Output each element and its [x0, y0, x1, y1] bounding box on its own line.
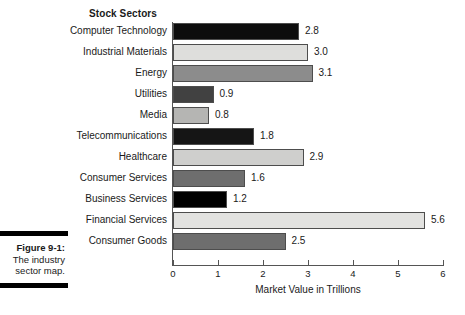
category-label: Telecommunications — [0, 130, 167, 141]
bar-value-label: 0.9 — [220, 88, 234, 99]
bar-row: Telecommunications1.8 — [173, 127, 443, 148]
bar-value-label: 3.1 — [319, 67, 333, 78]
bar[interactable] — [173, 44, 308, 61]
bar-value-label: 2.9 — [310, 151, 324, 162]
x-tick-label: 2 — [253, 268, 273, 279]
category-label: Consumer Services — [0, 172, 167, 183]
bar-row: Consumer Goods2.5 — [173, 232, 443, 253]
x-tick-label: 6 — [433, 268, 453, 279]
bar-chart: Stock Sectors 0123456 Computer Technolog… — [0, 0, 465, 315]
x-tick-mark — [308, 260, 309, 266]
bar-value-label: 5.6 — [431, 214, 445, 225]
bar[interactable] — [173, 233, 286, 250]
x-tick-mark — [398, 260, 399, 266]
bar-row: Consumer Services1.6 — [173, 169, 443, 190]
category-label: Healthcare — [0, 151, 167, 162]
x-tick-mark — [218, 260, 219, 266]
bar[interactable] — [173, 170, 245, 187]
bar-row: Media0.8 — [173, 106, 443, 127]
bar-value-label: 1.8 — [260, 130, 274, 141]
x-tick-mark — [353, 260, 354, 266]
bar-row: Business Services1.2 — [173, 190, 443, 211]
bar[interactable] — [173, 107, 209, 124]
bar[interactable] — [173, 23, 299, 40]
x-axis-title: Market Value in Trillions — [173, 284, 443, 295]
plot-area: 0123456 Computer Technology2.8Industrial… — [173, 22, 443, 265]
bar[interactable] — [173, 128, 254, 145]
bar-value-label: 1.6 — [251, 172, 265, 183]
x-tick-label: 1 — [208, 268, 228, 279]
x-tick-mark — [443, 260, 444, 266]
category-label: Financial Services — [0, 214, 167, 225]
bar-value-label: 1.2 — [233, 193, 247, 204]
x-tick-label: 3 — [298, 268, 318, 279]
bar-row: Industrial Materials3.0 — [173, 43, 443, 64]
category-label: Computer Technology — [0, 25, 167, 36]
bar[interactable] — [173, 191, 227, 208]
bar-value-label: 3.0 — [314, 46, 328, 57]
bar-row: Utilities0.9 — [173, 85, 443, 106]
bar[interactable] — [173, 86, 214, 103]
category-label: Media — [0, 109, 167, 120]
bar-value-label: 0.8 — [215, 109, 229, 120]
bar[interactable] — [173, 65, 313, 82]
bar-row: Energy3.1 — [173, 64, 443, 85]
bar-row: Financial Services5.6 — [173, 211, 443, 232]
category-label: Energy — [0, 67, 167, 78]
chart-title: Stock Sectors — [74, 8, 172, 19]
bar-value-label: 2.5 — [292, 235, 306, 246]
x-tick-label: 4 — [343, 268, 363, 279]
x-tick-mark — [263, 260, 264, 266]
bar[interactable] — [173, 212, 425, 229]
bar-row: Computer Technology2.8 — [173, 22, 443, 43]
x-tick-label: 0 — [163, 268, 183, 279]
category-label: Utilities — [0, 88, 167, 99]
category-label: Consumer Goods — [0, 235, 167, 246]
x-tick-mark — [173, 260, 174, 266]
category-label: Industrial Materials — [0, 46, 167, 57]
bar[interactable] — [173, 149, 304, 166]
bar-row: Healthcare2.9 — [173, 148, 443, 169]
category-label: Business Services — [0, 193, 167, 204]
x-tick-label: 5 — [388, 268, 408, 279]
bar-value-label: 2.8 — [305, 25, 319, 36]
